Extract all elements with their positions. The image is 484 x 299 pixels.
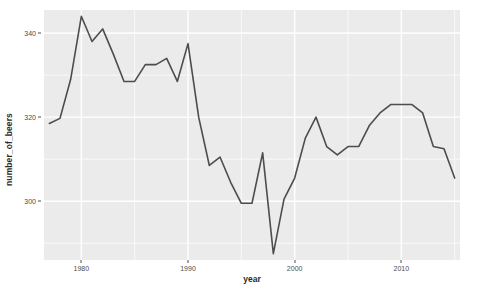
x-axis-title: year <box>44 274 460 284</box>
x-tick-mark <box>401 260 402 263</box>
x-tick-label: 2000 <box>287 265 303 272</box>
x-tick-label: 1980 <box>74 265 90 272</box>
chart-container: number_of_beers 300320340 19801990200020… <box>0 0 484 299</box>
x-axis-tick-group: 1980199020002010 <box>0 0 484 299</box>
x-tick-label: 2010 <box>394 265 410 272</box>
x-tick-mark <box>188 260 189 263</box>
x-tick-mark <box>294 260 295 263</box>
x-tick-mark <box>81 260 82 263</box>
x-tick-label: 1990 <box>180 265 196 272</box>
